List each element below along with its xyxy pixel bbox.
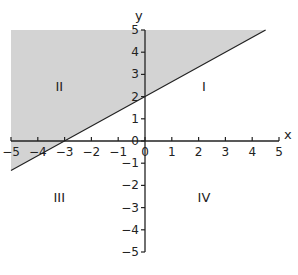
y-tick-label: −4 — [121, 223, 139, 237]
quadrant-label-II: II — [55, 79, 63, 94]
y-tick-label: −3 — [121, 201, 139, 215]
x-tick-label: 1 — [168, 145, 176, 159]
x-tick-label: −4 — [29, 145, 47, 159]
y-tick-label: −5 — [121, 245, 139, 259]
x-tick-label: −5 — [2, 145, 20, 159]
quadrant-label-I: I — [202, 79, 206, 94]
x-tick-label: 4 — [248, 145, 256, 159]
x-axis-label: x — [284, 127, 292, 142]
quadrant-label-IV: IV — [198, 190, 211, 205]
x-tick-label: 3 — [222, 145, 230, 159]
y-tick-label: 3 — [131, 67, 139, 81]
y-tick-label: 1 — [131, 112, 139, 126]
x-tick-label: 2 — [195, 145, 203, 159]
x-tick-label: 5 — [275, 145, 283, 159]
y-axis-label: y — [135, 8, 143, 23]
y-tick-label: 5 — [131, 23, 139, 37]
coordinate-plane: −5−4−3−2−1012345 −5−4−3−2−1012345 x y II… — [0, 0, 298, 275]
y-tick-label: 0 — [131, 134, 139, 148]
x-tick-label: −3 — [56, 145, 74, 159]
y-tick-label: 2 — [131, 90, 139, 104]
x-tick-label: 0 — [141, 145, 149, 159]
x-tick-label: −2 — [83, 145, 101, 159]
quadrant-label-III: III — [53, 190, 65, 205]
y-tick-label: 4 — [131, 45, 139, 59]
y-tick-label: −1 — [121, 156, 139, 170]
y-tick-label: −2 — [121, 178, 139, 192]
